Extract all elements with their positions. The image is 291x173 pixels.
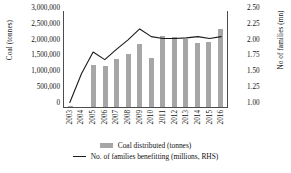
x-tick-label: 2013 [182, 110, 190, 124]
y-right-tick: 1.00 [247, 100, 260, 107]
y-axis-right-title: No of families (mn) [277, 4, 285, 76]
x-tick-2004: 2004 [79, 109, 84, 139]
x-tick-2014: 2014 [196, 109, 201, 139]
x-tick-label: 2006 [101, 110, 109, 124]
y-left-tick: 1,000,000 [31, 68, 60, 75]
chart-legend: Coal distributed (tonnes) No. of familie… [0, 141, 291, 161]
y-left-tick: 2,000,000 [31, 37, 60, 44]
x-tick-label: 2011 [159, 110, 167, 124]
legend-label: No. of families benefitting (millions, R… [91, 152, 218, 161]
x-tick-2013: 2013 [184, 109, 189, 139]
y-right-tick: 1.50 [247, 68, 260, 75]
y-right-tick: 2.25 [247, 21, 260, 28]
y-right-tick: 2.00 [247, 37, 260, 44]
x-tick-2006: 2006 [102, 109, 107, 139]
x-tick-label: 2010 [147, 110, 155, 124]
x-tick-2007: 2007 [114, 109, 119, 139]
line-series-families-benefitting [64, 11, 227, 107]
y-left-tick: 0 [56, 100, 60, 107]
y-left-tick: 500,000 [37, 84, 60, 91]
x-tick-label: 2005 [89, 110, 97, 124]
x-tick-label: 2015 [206, 110, 214, 124]
x-tick-2011: 2011 [161, 109, 166, 139]
x-tick-label: 2003 [66, 110, 74, 124]
x-tick-label: 2016 [217, 110, 225, 124]
x-tick-label: 2014 [194, 110, 202, 124]
x-tick-2009: 2009 [137, 109, 142, 139]
legend-item-families-benefitting: No. of families benefitting (millions, R… [73, 152, 218, 161]
legend-item-coal-distributed: Coal distributed (tonnes) [100, 141, 191, 150]
legend-label: Coal distributed (tonnes) [118, 141, 191, 150]
y-right-tick: 1.75 [247, 52, 260, 59]
y-left-tick: 2,500,000 [31, 21, 60, 28]
x-tick-2005: 2005 [91, 109, 96, 139]
y-right-tick: 1.25 [247, 84, 260, 91]
y-left-tick: 1,500,000 [31, 52, 60, 59]
x-tick-label: 2008 [124, 110, 132, 124]
y-axis-left-title: Coal (tonnes) [6, 4, 14, 76]
x-tick-2010: 2010 [149, 109, 154, 139]
x-tick-label: 2004 [77, 110, 85, 124]
x-axis-ticks: 2003200420052006200720082009201020112012… [63, 109, 228, 139]
x-tick-2008: 2008 [126, 109, 131, 139]
plot-area [63, 11, 228, 108]
x-tick-label: 2009 [136, 110, 144, 124]
line-swatch-icon [73, 156, 86, 157]
y-axis-left-ticks: 3,000,000 2,500,000 2,000,000 1,500,000 … [18, 8, 60, 110]
x-tick-2012: 2012 [172, 109, 177, 139]
coal-distribution-chart: Coal (tonnes) No of families (mn) 3,000,… [0, 0, 291, 173]
x-tick-2016: 2016 [219, 109, 224, 139]
y-right-tick: 2.50 [247, 5, 260, 12]
y-left-tick: 3,000,000 [31, 5, 60, 12]
x-tick-2003: 2003 [68, 109, 73, 139]
x-tick-label: 2007 [112, 110, 120, 124]
x-tick-2015: 2015 [207, 109, 212, 139]
x-tick-label: 2012 [171, 110, 179, 124]
y-axis-right-ticks: 2.50 2.25 2.00 1.75 1.50 1.25 1.00 [247, 8, 273, 110]
bar-swatch-icon [100, 143, 113, 148]
